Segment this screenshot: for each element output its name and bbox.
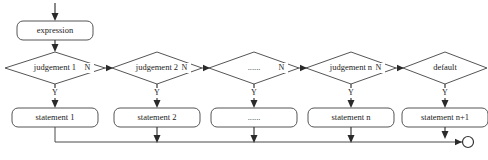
flowchart-svg: expression judgement 1 judgement 2 .....…: [0, 0, 488, 160]
decision-label-5: default: [433, 62, 457, 72]
statement-label-2: statement 2: [138, 112, 177, 122]
decision-label-3: ......: [248, 62, 261, 72]
merge-drop-statement-2: [154, 127, 161, 143]
edge-label-yes-3: Y: [251, 88, 257, 97]
statement-label-5: statement n+1: [421, 112, 469, 122]
merge-rail-arrow: [455, 139, 462, 145]
statement-node-ellipsis[interactable]: ......: [211, 108, 297, 127]
merge-drop-statement-n-plus-1: [442, 127, 449, 139]
decision-label-2: judgement 2: [135, 62, 178, 72]
merge-drop-statement-n: [348, 127, 355, 143]
statement-node-n[interactable]: statement n: [308, 108, 394, 127]
statement-label-1: statement 1: [36, 112, 75, 122]
decision-node-default[interactable]: default: [403, 52, 487, 84]
statement-label-4: statement n: [332, 112, 372, 122]
merge-rail-from-statement-1: [55, 127, 462, 142]
decision-label-4: judgement n: [329, 62, 373, 72]
statement-node-1[interactable]: statement 1: [12, 108, 98, 127]
connector-yes-4: Y: [345, 84, 357, 108]
statement-node-2[interactable]: statement 2: [114, 108, 200, 127]
edge-label-no-4: N: [376, 63, 382, 72]
connector-expression-to-judgement-1: [52, 40, 59, 52]
expression-label: expression: [37, 25, 74, 35]
edge-label-yes-5: Y: [442, 88, 448, 97]
edge-label-yes-4: Y: [348, 88, 354, 97]
expression-node[interactable]: expression: [17, 21, 93, 40]
edge-label-no-1: N: [85, 63, 91, 72]
statement-node-n-plus-1[interactable]: statement n+1: [402, 108, 488, 127]
edge-label-yes-1: Y: [52, 88, 58, 97]
flowchart-canvas: expression judgement 1 judgement 2 .....…: [0, 0, 488, 160]
merge-drop-statement-ellipsis: [251, 127, 258, 143]
connector-yes-1: Y: [49, 84, 61, 108]
merge-node[interactable]: [463, 137, 474, 148]
entry-arrow: [52, 3, 59, 21]
decision-label-1: judgement 1: [33, 62, 76, 72]
statement-label-3: ......: [248, 112, 261, 122]
connector-yes-3: Y: [248, 84, 260, 108]
edge-label-no-3: N: [279, 63, 285, 72]
connector-yes-2: Y: [151, 84, 163, 108]
edge-label-no-2: N: [182, 63, 188, 72]
connector-yes-5: Y: [439, 84, 451, 108]
edge-label-yes-2: Y: [154, 88, 160, 97]
